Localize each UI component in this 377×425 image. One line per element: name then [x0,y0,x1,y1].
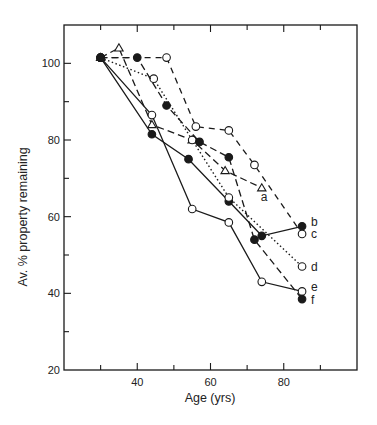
y-tick-label: 80 [48,134,60,146]
open-circle-marker [298,263,306,271]
filled-circle-marker [251,236,259,244]
open-circle-marker [225,219,233,227]
line-chart: 40608020406080100 abcdef Age (yrs) Av. %… [0,0,377,425]
axis-ticks [64,25,320,370]
series-f [97,54,306,303]
series-label-f: f [311,293,315,307]
open-circle-marker [298,288,306,296]
open-circle-marker [298,230,306,238]
plot-border [64,25,357,370]
open-circle-marker [148,111,156,119]
x-tick-label: 60 [204,376,216,388]
series-line-f [101,58,303,300]
y-axis-title: Av. % property remaining [16,147,30,286]
plot-frame [64,25,357,370]
filled-circle-marker [133,54,141,62]
series-line-e [101,58,303,292]
open-circle-marker [188,205,196,213]
filled-circle-marker [97,54,105,62]
triangle-marker [115,44,123,51]
series-label-c: c [311,227,317,241]
filled-circle-marker [185,155,193,163]
y-tick-label: 20 [48,364,60,376]
series-layer [96,44,305,303]
filled-circle-marker [148,130,156,138]
open-circle-marker [163,54,171,62]
y-tick-label: 40 [48,287,60,299]
open-circle-marker [258,278,266,286]
filled-circle-marker [196,138,204,146]
x-tick-label: 40 [131,376,143,388]
filled-circle-marker [163,102,171,110]
series-d [97,54,306,271]
open-circle-marker [192,123,200,131]
x-tick-label: 80 [278,376,290,388]
open-circle-marker [150,75,158,83]
open-circle-marker [225,127,233,135]
filled-circle-marker [298,222,306,230]
series-labels: abcdef [261,190,318,307]
filled-circle-marker [225,153,233,161]
series-line-d [101,58,303,267]
x-axis-title: Age (yrs) [185,391,236,405]
series-line-a [101,48,262,188]
series-label-d: d [311,260,318,274]
open-circle-marker [225,194,233,202]
y-tick-label: 100 [42,57,60,69]
open-circle-marker [251,161,259,169]
series-line-b [101,58,303,236]
filled-circle-marker [298,295,306,303]
y-tick-label: 60 [48,211,60,223]
series-e [97,54,306,295]
series-label-a: a [261,190,268,204]
series-a [96,44,266,191]
filled-circle-marker [258,232,266,240]
